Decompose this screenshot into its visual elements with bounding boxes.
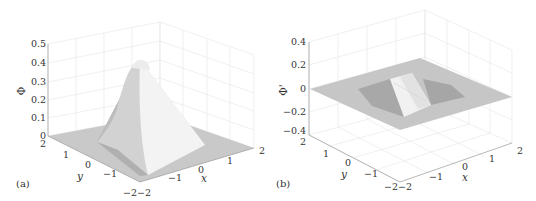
panel-b-x-axis — [400, 143, 512, 182]
z-tick: 0.1 — [31, 112, 46, 123]
z-tick: 0.3 — [31, 76, 46, 87]
panel-a-z-ticks: 0.5 0.4 0.3 0.2 0.1 0 — [31, 38, 46, 141]
panel-a-y-label: y — [76, 170, 84, 182]
x-tick: −1 — [429, 171, 443, 182]
y-tick: 2 — [300, 136, 306, 147]
y-tick: −2 — [384, 181, 398, 192]
x-tick: 2 — [517, 145, 523, 156]
x-tick: 2 — [259, 145, 265, 156]
x-tick: 1 — [227, 155, 233, 166]
panel-b-x-label: x — [462, 171, 468, 183]
z-tick: 0.5 — [31, 38, 46, 49]
z-tick: 0.4 — [31, 57, 46, 68]
y-tick: 2 — [40, 138, 46, 149]
panel-b-y-ticks: 2 1 0 −1 −2 — [300, 136, 398, 192]
y-tick: 1 — [63, 149, 69, 160]
z-tick: −0.2 — [283, 106, 306, 117]
y-tick: −2 — [123, 187, 137, 198]
panel-b-z-label: Φ' — [277, 84, 289, 96]
z-tick: 0.2 — [31, 94, 46, 105]
z-tick: 0.2 — [291, 59, 306, 70]
panel-b-y-label: y — [340, 168, 348, 180]
panel-a-label: (a) — [16, 178, 30, 189]
z-tick: 0 — [300, 83, 306, 94]
y-tick: −1 — [103, 168, 117, 179]
panel-a-x-label: x — [201, 172, 207, 184]
x-tick: −1 — [168, 172, 182, 183]
panel-b-x-ticks: −2 −1 0 1 2 — [398, 145, 523, 192]
y-tick: 1 — [323, 148, 329, 159]
panel-b-label: (b) — [276, 178, 290, 189]
z-tick: 0.4 — [291, 36, 306, 47]
panel-a: 0.5 0.4 0.3 0.2 0.1 0 Φ 2 1 0 −1 −2 y −2… — [15, 22, 265, 198]
y-tick: 0 — [85, 159, 91, 170]
panel-a-z-label: Φ — [15, 86, 27, 95]
y-tick: −1 — [364, 168, 378, 179]
x-tick: 1 — [489, 153, 495, 164]
figure: 0.5 0.4 0.3 0.2 0.1 0 Φ 2 1 0 −1 −2 y −2… — [0, 0, 536, 201]
x-tick: −2 — [398, 181, 412, 192]
figure-svg: 0.5 0.4 0.3 0.2 0.1 0 Φ 2 1 0 −1 −2 y −2… — [0, 0, 536, 201]
z-tick: −0.4 — [283, 125, 306, 136]
panel-b: 0.4 0.2 0 −0.2 −0.4 Φ' 2 1 0 −1 −2 y −2 … — [276, 10, 523, 192]
x-tick: −2 — [137, 187, 151, 198]
y-tick: 0 — [345, 157, 351, 168]
